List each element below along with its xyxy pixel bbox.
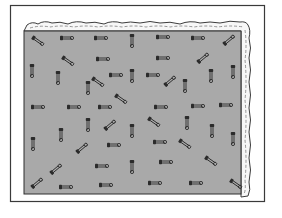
safety-pin-board-illustration xyxy=(0,0,282,218)
